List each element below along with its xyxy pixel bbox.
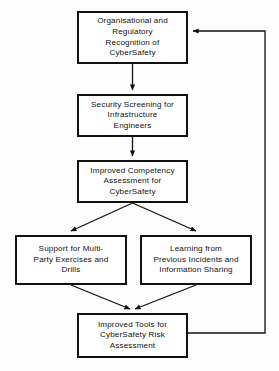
flowchart-diagram: Organisational and Regulatory Recognitio…	[0, 0, 279, 371]
node-label: Learning from Previous Incidents and Inf…	[150, 244, 241, 276]
node-multi-party-exercises[interactable]: Support for Multi- Party Exercises and D…	[15, 235, 127, 285]
node-label: Improved Competency Assessment for Cyber…	[87, 166, 177, 198]
node-learning-incidents[interactable]: Learning from Previous Incidents and Inf…	[140, 235, 252, 285]
node-label: Support for Multi- Party Exercises and D…	[31, 244, 112, 276]
node-security-screening[interactable]: Security Screening for Infrastructure En…	[77, 94, 188, 137]
node-regulatory-recognition[interactable]: Organisational and Regulatory Recognitio…	[77, 11, 188, 64]
edge-tools-to-recognition	[188, 31, 265, 333]
node-label: Security Screening for Infrastructure En…	[88, 100, 177, 132]
node-label: Improved Tools for CyberSafety Risk Asse…	[95, 320, 170, 352]
edge-exercises-to-tools	[71, 285, 130, 309]
node-competency-assessment[interactable]: Improved Competency Assessment for Cyber…	[77, 160, 188, 203]
node-improved-tools[interactable]: Improved Tools for CyberSafety Risk Asse…	[77, 313, 188, 358]
edge-competency-to-exercises	[71, 203, 133, 231]
edge-learning-to-tools	[135, 285, 196, 309]
node-label: Organisational and Regulatory Recognitio…	[94, 16, 171, 58]
edge-competency-to-learning	[133, 203, 197, 231]
